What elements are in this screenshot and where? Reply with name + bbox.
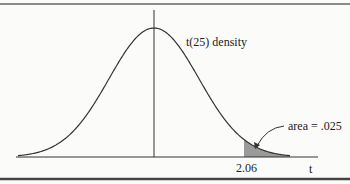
x-axis-label: t: [309, 163, 312, 175]
annotation-arrow: [257, 126, 284, 146]
area-annotation: area = .025: [288, 120, 342, 132]
tick-label-critical: 2.06: [236, 162, 257, 174]
chart-canvas: [0, 0, 350, 184]
t-distribution-figure: t(25) density area = .025 2.06 t: [0, 0, 350, 184]
curve-label: t(25) density: [186, 36, 247, 48]
